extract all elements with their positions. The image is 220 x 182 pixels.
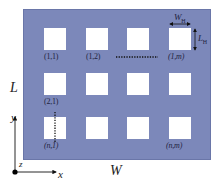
origin-z-dot — [12, 169, 17, 174]
annotation-layer — [0, 0, 220, 182]
